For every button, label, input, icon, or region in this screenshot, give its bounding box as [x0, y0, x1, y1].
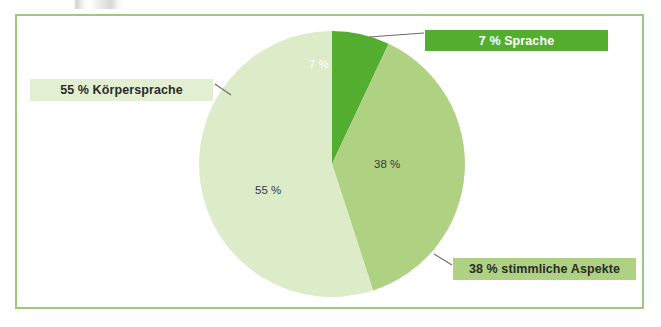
- callout-label-sprache[interactable]: 7 % Sprache: [425, 30, 608, 51]
- leader-line-sprache: [369, 33, 424, 37]
- leader-line-stimmliche-aspekte: [434, 254, 452, 265]
- callout-label-stimmliche-aspekte[interactable]: 38 % stimmliche Aspekte: [453, 258, 636, 280]
- chart-figure: 7 % 38 % 55 % 7 % Sprache 55 % Körperspr…: [0, 0, 661, 327]
- callout-label-koerpersprache[interactable]: 55 % Körpersprache: [30, 79, 213, 101]
